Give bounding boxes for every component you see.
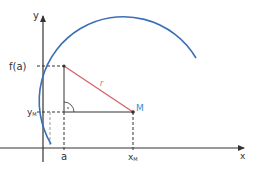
right-angle-dot: [67, 107, 69, 109]
radius-label: r: [100, 79, 104, 88]
center-label: M: [136, 103, 144, 113]
x-m-subscript: M: [133, 156, 137, 162]
tangent-point: [62, 64, 65, 67]
x-axis-label: x: [240, 151, 246, 161]
radius-line: [64, 66, 133, 112]
y-axis-label: y: [33, 10, 39, 21]
x-m-label: xM: [128, 152, 138, 162]
a-label: a: [61, 151, 67, 162]
y-m-label: yM: [27, 107, 37, 117]
circle-arc: [39, 17, 196, 144]
f-a-label: f(a): [9, 61, 27, 72]
right-angle-marker: [64, 102, 74, 112]
circle-tangent-diagram: y x f(a) yM a xM r M: [0, 0, 254, 173]
y-m-subscript: M: [32, 111, 36, 117]
center-point: [131, 110, 135, 114]
